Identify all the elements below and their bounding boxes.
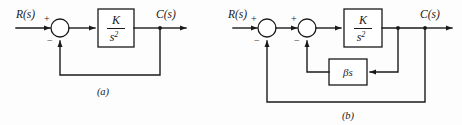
input-label-b: R(s) (227, 8, 247, 21)
caption-a: (a) (97, 86, 110, 98)
rate-feedback-label-b: βs (342, 66, 353, 78)
inner-feedback-wire-out-b (307, 41, 329, 72)
plant-numerator-b: K (358, 13, 368, 27)
summing-junction-b1 (258, 19, 276, 37)
output-label-a: C(s) (156, 8, 176, 21)
summing-junction-a1 (51, 19, 69, 37)
diagram-canvas: R(s) + − K s2 C(s) (a) R(s) + − + − K s2… (0, 0, 462, 125)
input-label-a: R(s) (15, 8, 35, 21)
output-label-b: C(s) (420, 8, 440, 21)
plus-sign-b1: + (251, 13, 257, 24)
plus-sign-b2: + (291, 13, 297, 24)
block-diagram-figure: R(s) + − K s2 C(s) (a) R(s) + − + − K s2… (0, 0, 462, 125)
minus-sign-b1: − (254, 35, 260, 46)
plus-sign-a1: + (44, 13, 50, 24)
summing-junction-b2 (298, 19, 316, 37)
plant-numerator-a: K (111, 13, 121, 27)
minus-sign-a1: − (47, 35, 53, 46)
minus-sign-b2: − (294, 35, 300, 46)
caption-b: (b) (342, 110, 355, 122)
diagram-b (233, 9, 452, 102)
